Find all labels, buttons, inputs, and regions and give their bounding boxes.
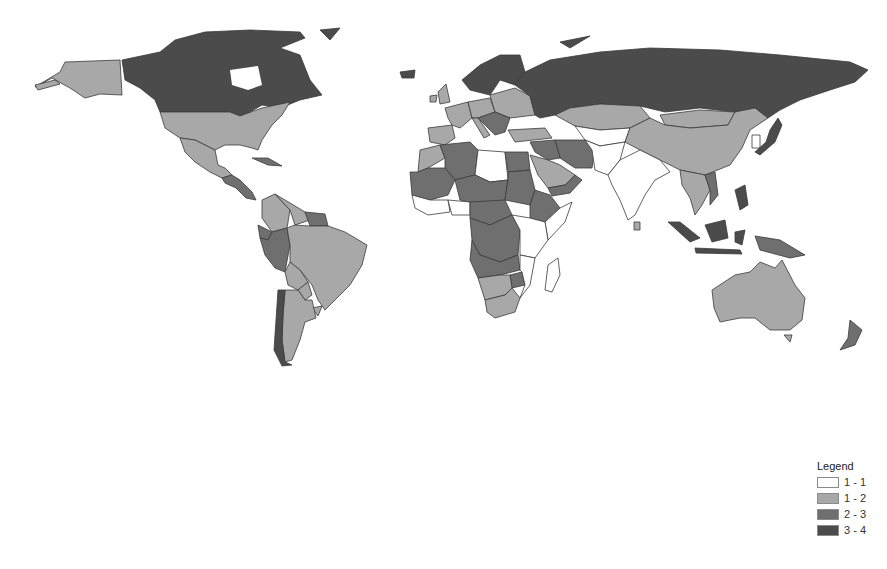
region-uk[interactable] <box>438 84 450 104</box>
legend-swatch-4 <box>817 525 839 536</box>
region-central-america[interactable] <box>222 175 256 200</box>
region-greenland-arctic[interactable] <box>320 28 340 40</box>
region-indonesia-sumatra[interactable] <box>668 222 700 242</box>
region-indonesia-borneo[interactable] <box>705 220 728 242</box>
legend-swatch-2 <box>817 493 839 504</box>
legend-item-2: 1 - 2 <box>817 490 887 506</box>
region-philippines[interactable] <box>735 185 748 210</box>
region-iberia[interactable] <box>428 125 455 145</box>
region-western-europe[interactable] <box>445 102 472 128</box>
legend-item-3: 2 - 3 <box>817 506 887 522</box>
region-papua-new-guinea[interactable] <box>755 236 805 258</box>
region-nigeria[interactable] <box>448 200 470 215</box>
region-russia[interactable] <box>515 48 868 118</box>
legend-label-2: 1 - 2 <box>844 492 866 504</box>
region-guianas[interactable] <box>305 212 328 226</box>
legend-swatch-1 <box>817 477 839 488</box>
legend-swatch-3 <box>817 509 839 520</box>
region-argentina[interactable] <box>282 290 316 362</box>
legend-title: Legend <box>817 460 887 472</box>
map-legend: Legend 1 - 1 1 - 2 2 - 3 3 - 4 <box>817 460 887 538</box>
region-new-zealand[interactable] <box>840 320 862 350</box>
region-australia[interactable] <box>712 260 805 330</box>
region-alaska-tail[interactable] <box>35 80 60 90</box>
region-indonesia-java[interactable] <box>695 248 742 254</box>
region-novaya-zemlya[interactable] <box>560 36 590 48</box>
legend-item-1: 1 - 1 <box>817 474 887 490</box>
region-indonesia-sulawesi[interactable] <box>735 230 745 245</box>
legend-label-3: 2 - 3 <box>844 508 866 520</box>
legend-item-4: 3 - 4 <box>817 522 887 538</box>
region-egypt[interactable] <box>505 152 530 172</box>
region-sri-lanka[interactable] <box>634 222 640 230</box>
region-turkey[interactable] <box>508 128 552 142</box>
region-sahel-west[interactable] <box>410 168 455 200</box>
region-tasmania[interactable] <box>784 335 792 342</box>
region-colombia[interactable] <box>262 194 290 232</box>
region-ireland[interactable] <box>430 95 437 102</box>
world-map[interactable] <box>0 0 887 569</box>
region-alaska[interactable] <box>35 60 122 98</box>
region-canada[interactable] <box>122 30 322 116</box>
region-iceland[interactable] <box>400 70 415 78</box>
legend-label-4: 3 - 4 <box>844 524 866 536</box>
region-cuba[interactable] <box>252 158 282 166</box>
region-sudan[interactable] <box>505 170 535 205</box>
region-madagascar[interactable] <box>545 258 560 292</box>
region-korea[interactable] <box>752 135 760 148</box>
legend-label-1: 1 - 1 <box>844 476 866 488</box>
